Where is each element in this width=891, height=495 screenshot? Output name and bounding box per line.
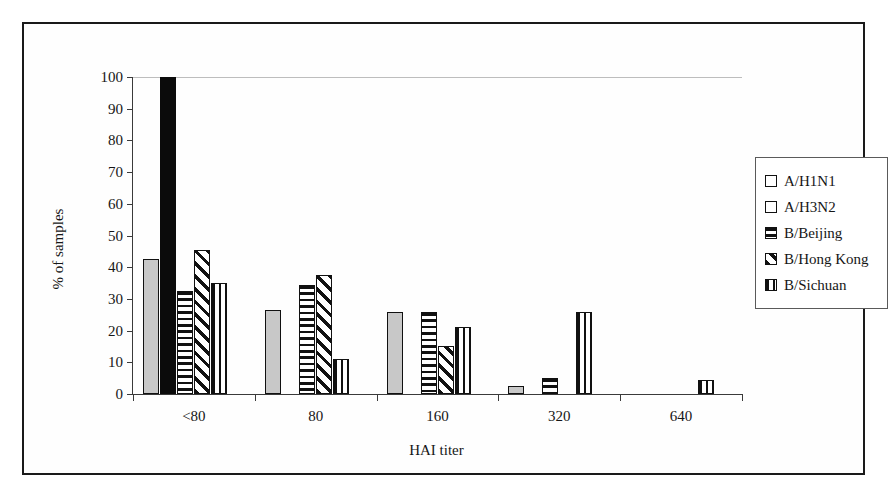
y-tick (127, 140, 133, 141)
y-tick (127, 109, 133, 110)
x-tick (255, 394, 256, 401)
bar (508, 386, 524, 394)
bar (316, 275, 332, 394)
bar (698, 380, 714, 394)
y-tick-label: 20 (108, 323, 123, 338)
x-tick (377, 394, 378, 401)
y-tick-label: 100 (101, 70, 124, 85)
bar (143, 259, 159, 394)
bar (421, 312, 437, 394)
x-axis-title: HAI titer (132, 442, 741, 459)
bar (438, 346, 454, 394)
y-tick (127, 331, 133, 332)
x-tick (133, 394, 134, 401)
y-tick-label: 10 (108, 355, 123, 370)
bar (542, 378, 558, 394)
legend-item-b-hong-kong[interactable]: B/Hong Kong (765, 246, 878, 272)
plot-area: 0102030405060708090100 <8080160320640 (132, 77, 742, 395)
x-tick-label: 640 (670, 408, 693, 425)
bar (194, 250, 210, 394)
bar (211, 283, 227, 394)
y-tick (127, 267, 133, 268)
bar (299, 285, 315, 394)
bar (455, 327, 471, 394)
legend-label: B/Beijing (784, 226, 842, 241)
legend-item-a-h3n2[interactable]: A/H3N2 (765, 194, 878, 220)
figure-frame: % of samples 0102030405060708090100 <808… (22, 22, 865, 475)
x-tick (498, 394, 499, 401)
y-tick (127, 204, 133, 205)
legend-item-b-beijing[interactable]: B/Beijing (765, 220, 878, 246)
legend-swatch-icon (765, 201, 777, 213)
chart-legend: A/H1N1A/H3N2B/BeijingB/Hong KongB/Sichua… (755, 157, 888, 309)
y-tick-label: 80 (108, 133, 123, 148)
x-tick (620, 394, 621, 401)
legend-label: B/Hong Kong (784, 252, 869, 267)
y-tick (127, 236, 133, 237)
x-tick (742, 394, 743, 401)
y-tick-label: 70 (108, 165, 123, 180)
legend-swatch-icon (765, 279, 777, 291)
legend-label: A/H1N1 (784, 174, 836, 189)
bar (177, 291, 193, 394)
y-tick-label: 0 (116, 387, 124, 402)
y-tick (127, 362, 133, 363)
bar (576, 312, 592, 394)
bar (333, 359, 349, 394)
x-tick-label: 160 (426, 408, 449, 425)
y-tick-label: 90 (108, 101, 123, 116)
legend-label: A/H3N2 (784, 200, 836, 215)
x-tick-label: 80 (308, 408, 323, 425)
y-tick (127, 77, 133, 78)
legend-item-b-sichuan[interactable]: B/Sichuan (765, 272, 878, 298)
legend-item-a-h1n1[interactable]: A/H1N1 (765, 168, 878, 194)
y-tick (127, 299, 133, 300)
y-tick-label: 30 (108, 291, 123, 306)
y-axis-title: % of samples (50, 208, 67, 289)
legend-swatch-icon (765, 175, 777, 187)
legend-swatch-icon (765, 227, 777, 239)
y-tick-label: 40 (108, 260, 123, 275)
y-tick-label: 60 (108, 196, 123, 211)
bar (387, 312, 403, 394)
legend-swatch-icon (765, 253, 777, 265)
legend-label: B/Sichuan (784, 278, 847, 293)
bar (160, 77, 176, 394)
x-tick-label: <80 (182, 408, 205, 425)
bar (265, 310, 281, 394)
y-tick-label: 50 (108, 228, 123, 243)
y-tick (127, 172, 133, 173)
x-tick-label: 320 (548, 408, 571, 425)
